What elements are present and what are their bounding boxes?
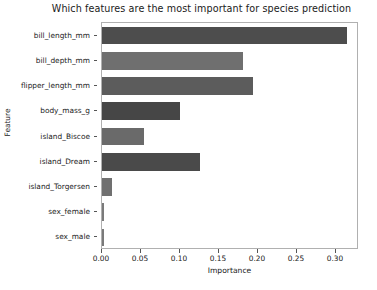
y-tick-mark — [94, 186, 98, 187]
y-tick-label-flipper_length_mm: flipper_length_mm — [21, 81, 90, 90]
x-tick-mark — [296, 249, 297, 253]
x-tick-mark — [140, 249, 141, 253]
x-tick-label-0.05: 0.05 — [132, 254, 148, 263]
x-tick-label-0.30: 0.30 — [327, 254, 343, 263]
bar-island_Biscoe — [102, 128, 144, 146]
bar-row — [102, 27, 357, 45]
y-tick-label-island_Torgersen: island_Torgersen — [28, 181, 90, 190]
x-tick-mark — [218, 249, 219, 253]
x-axis: Importance 0.000.050.100.150.200.250.30 — [101, 249, 358, 289]
bar-sex_male — [102, 229, 104, 247]
bar-island_Dream — [102, 153, 200, 171]
y-tick-mark — [94, 60, 98, 61]
y-tick-mark — [94, 110, 98, 111]
y-tick-mark — [94, 211, 98, 212]
y-axis-tick-labels: bill_length_mmbill_depth_mmflipper_lengt… — [0, 22, 97, 249]
x-tick-mark — [101, 249, 102, 253]
bar-bill_depth_mm — [102, 52, 243, 70]
bar-chart-figure: Which features are the most important fo… — [0, 0, 377, 290]
plot-area — [101, 22, 358, 249]
y-tick-label-sex_female: sex_female — [48, 207, 90, 216]
x-tick-label-0.00: 0.00 — [93, 254, 109, 263]
x-tick-label-0.20: 0.20 — [249, 254, 265, 263]
y-tick-label-sex_male: sex_male — [55, 232, 90, 241]
y-tick-label-bill_depth_mm: bill_depth_mm — [36, 55, 90, 64]
x-tick-mark — [335, 249, 336, 253]
y-tick-label-island_Biscoe: island_Biscoe — [40, 131, 90, 140]
y-tick-mark — [94, 236, 98, 237]
y-tick-label-body_mass_g: body_mass_g — [40, 106, 90, 115]
bar-sex_female — [102, 203, 104, 221]
bar-row — [102, 52, 357, 70]
x-tick-mark — [179, 249, 180, 253]
y-tick-mark — [94, 161, 98, 162]
bar-flipper_length_mm — [102, 77, 253, 95]
bar-row — [102, 77, 357, 95]
bar-series — [102, 23, 357, 248]
y-axis-label: Feature — [3, 93, 12, 153]
x-axis-label: Importance — [101, 266, 358, 275]
x-tick-label-0.10: 0.10 — [171, 254, 187, 263]
bar-row — [102, 128, 357, 146]
y-tick-mark — [94, 136, 98, 137]
bar-body_mass_g — [102, 102, 180, 120]
x-tick-label-0.25: 0.25 — [288, 254, 304, 263]
bar-bill_length_mm — [102, 27, 347, 45]
bar-row — [102, 203, 357, 221]
y-tick-label-island_Dream: island_Dream — [40, 156, 90, 165]
y-tick-mark — [94, 35, 98, 36]
bar-row — [102, 153, 357, 171]
bar-row — [102, 102, 357, 120]
bar-row — [102, 229, 357, 247]
bar-island_Torgersen — [102, 178, 112, 196]
bar-row — [102, 178, 357, 196]
chart-title: Which features are the most important fo… — [0, 3, 377, 14]
x-tick-mark — [257, 249, 258, 253]
y-tick-mark — [94, 85, 98, 86]
x-tick-label-0.15: 0.15 — [210, 254, 226, 263]
y-tick-label-bill_length_mm: bill_length_mm — [34, 30, 90, 39]
